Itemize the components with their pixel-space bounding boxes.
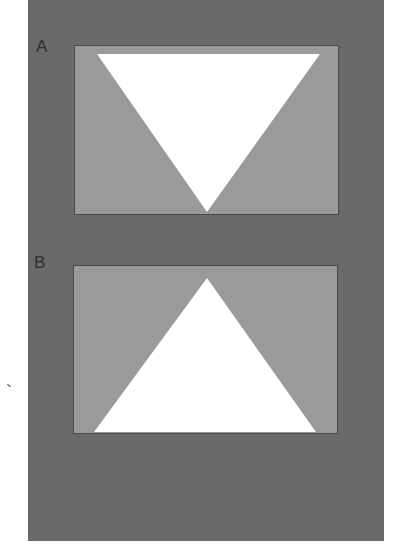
inverted-triangle-icon xyxy=(74,45,339,215)
scan-speck xyxy=(7,384,11,387)
panel-a xyxy=(74,45,339,215)
panel-b-label: B xyxy=(34,253,45,273)
panel-a-label: A xyxy=(36,37,47,57)
upright-triangle-icon xyxy=(73,265,338,434)
panel-b xyxy=(73,265,338,434)
